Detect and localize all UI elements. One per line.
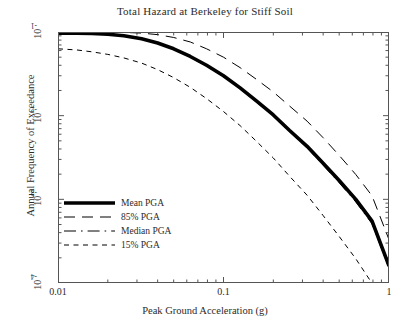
legend-swatch-short-dash <box>62 239 117 251</box>
y-tick-label: 10-4 <box>10 275 44 288</box>
x-tick-label: 0.1 <box>204 286 244 297</box>
x-axis-label: Peak Ground Acceleration (g) <box>0 305 410 316</box>
y-tick-label: 10-2 <box>10 108 44 121</box>
legend-label: Mean PGA <box>117 198 164 208</box>
legend-swatch-thick-solid <box>62 197 117 209</box>
chart-figure: Total Hazard at Berkeley for Stiff Soil … <box>0 0 410 328</box>
x-tick-label: 0.01 <box>38 286 78 297</box>
legend-label: 15% PGA <box>117 240 160 250</box>
legend-label: 85% PGA <box>117 212 160 222</box>
legend-swatch-dash-dot <box>62 225 117 237</box>
legend-label: Median PGA <box>117 226 171 236</box>
y-tick-label: 10-1 <box>10 24 44 37</box>
y-axis-label: Annual Frequency of Exceedance <box>25 46 36 246</box>
legend-item: Mean PGA <box>62 196 192 210</box>
x-tick-label: 1 <box>369 286 409 297</box>
legend-item: 15% PGA <box>62 238 192 252</box>
legend-swatch-long-dash <box>62 211 117 223</box>
legend-item: Median PGA <box>62 224 192 238</box>
legend-item: 85% PGA <box>62 210 192 224</box>
chart-legend: Mean PGA85% PGAMedian PGA15% PGA <box>62 196 192 252</box>
chart-title: Total Hazard at Berkeley for Stiff Soil <box>0 5 410 17</box>
y-tick-label: 10-3 <box>10 191 44 204</box>
